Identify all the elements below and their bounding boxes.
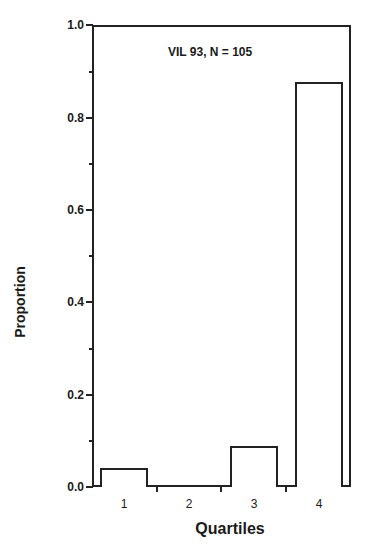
y-tick-0 [86,486,93,488]
y-tick-1 [86,394,93,396]
y-tick-5 [86,24,93,26]
y-minor-tick [89,348,93,350]
y-tick-label: 0.6 [48,203,84,217]
bar-quartile-1 [100,468,148,487]
y-tick-label: 0.0 [48,480,84,494]
x-tick-label: 3 [244,497,264,511]
y-axis-label-text: Proportion [12,266,28,338]
x-tick [285,487,287,492]
y-tick-label: 0.2 [48,388,84,402]
y-minor-tick [89,255,93,257]
y-minor-tick [89,163,93,165]
chart-annotation: VIL 93, N = 105 [168,45,252,59]
y-tick-label: 0.4 [48,295,84,309]
y-tick-3 [86,209,93,211]
bar-quartile-4 [295,82,343,487]
y-tick-label: 1.0 [48,18,84,32]
x-tick [220,487,222,492]
x-tick-label: 2 [179,497,199,511]
y-minor-tick [89,440,93,442]
x-axis-label: Quartiles [180,520,280,538]
x-tick-label: 4 [309,497,329,511]
y-tick-4 [86,117,93,119]
y-tick-2 [86,301,93,303]
y-axis-label: Proportion [3,262,37,342]
x-tick [156,487,158,492]
y-minor-tick [89,71,93,73]
y-tick-label: 0.8 [48,111,84,125]
x-tick-label: 1 [114,497,134,511]
bar-quartile-3 [230,446,278,487]
